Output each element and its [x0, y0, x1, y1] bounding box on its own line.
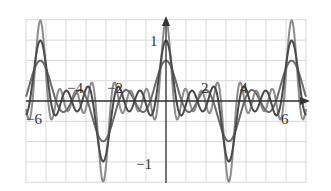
fourier-partial-sums-chart: −6 −4 −2 2 4 6 1 −1 — [0, 0, 331, 191]
x-tick-label: 2 — [201, 80, 209, 96]
x-tick-label: −4 — [67, 80, 83, 96]
y-tick-label: −1 — [136, 156, 152, 172]
y-axis-arrow-icon — [162, 16, 170, 26]
axes — [26, 16, 310, 183]
x-axis-arrow-icon — [300, 97, 310, 105]
y-tick-label: 1 — [150, 33, 158, 49]
x-tick-label: −6 — [26, 111, 42, 127]
x-tick-label: 6 — [281, 111, 289, 127]
x-tick-label: 4 — [240, 80, 248, 96]
x-tick-label: −2 — [107, 80, 123, 96]
